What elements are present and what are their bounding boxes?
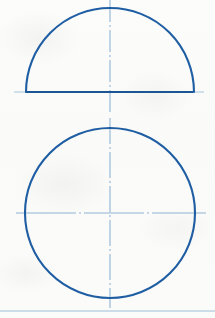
- technical-drawing-canvas: [0, 0, 215, 318]
- centerline-group: [16, 0, 206, 308]
- drawing-sheet: Technical drawing — semicircle and circl…: [0, 0, 215, 318]
- construction-line-group: [0, 92, 215, 311]
